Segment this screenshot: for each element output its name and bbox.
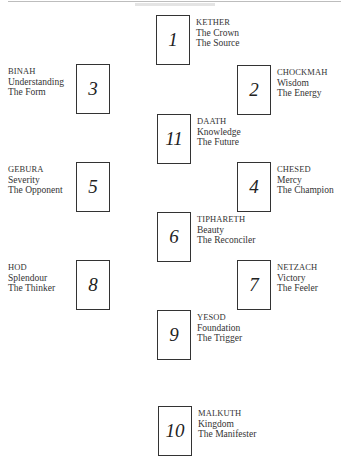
sephirah-role: The Feeler (277, 283, 318, 294)
sephirah-role: The Champion (277, 185, 334, 196)
sephirah-label-kether: KETHERThe CrownThe Source (196, 17, 240, 49)
sephirah-label-chesed: CHESEDMercyThe Champion (277, 164, 334, 196)
sephirah-label-hod: HODSplendourThe Thinker (8, 262, 55, 294)
sephirah-role: The Manifester (198, 429, 256, 440)
sephirah-number: 7 (249, 274, 259, 296)
sephirah-role: The Thinker (8, 283, 55, 294)
sephirah-number: 6 (169, 226, 179, 248)
sephirah-name: CHOCKMAH (277, 67, 327, 78)
sephirah-role: The Source (196, 38, 240, 49)
sephirah-label-gebura: GEBURASeverityThe Opponent (8, 164, 63, 196)
sephirah-number: 8 (88, 274, 98, 296)
sephirah-name: MALKUTH (198, 408, 256, 419)
sephirah-number: 10 (166, 420, 185, 442)
sephirah-name: TIPHARETH (197, 214, 255, 225)
sephirah-meaning: Kingdom (198, 419, 256, 430)
sephirah-label-daath: DAATHKnowledgeThe Future (197, 116, 241, 148)
sephirah-role: The Opponent (8, 185, 63, 196)
sephirah-meaning: Victory (277, 273, 318, 284)
sephirah-box-1: 1 (156, 15, 190, 65)
sephirah-box-3: 3 (76, 64, 110, 114)
sephirah-meaning: Understanding (8, 77, 64, 88)
sephirah-label-binah: BINAHUnderstandingThe Form (8, 66, 64, 98)
sephirah-meaning: Beauty (197, 225, 255, 236)
sephirah-role: The Trigger (197, 333, 242, 344)
sephirah-box-2: 2 (237, 65, 271, 115)
sephirah-role: The Reconciler (197, 235, 255, 246)
sephirah-meaning: Wisdom (277, 78, 327, 89)
sephirah-meaning: Splendour (8, 273, 55, 284)
sephirah-box-6: 6 (157, 212, 191, 262)
sephirah-name: YESOD (197, 312, 242, 323)
sephirah-box-10: 10 (158, 406, 192, 456)
sephirah-box-5: 5 (76, 162, 110, 212)
sephirah-label-tiphareth: TIPHARETHBeautyThe Reconciler (197, 214, 255, 246)
sephirah-number: 2 (249, 79, 259, 101)
sephirah-name: CHESED (277, 164, 334, 175)
sephirah-number: 1 (168, 29, 178, 51)
sephirah-number: 3 (88, 78, 98, 100)
sephirah-role: The Form (8, 87, 64, 98)
sephirah-name: GEBURA (8, 164, 63, 175)
sephirah-meaning: Knowledge (197, 127, 241, 138)
sephirah-role: The Future (197, 137, 241, 148)
sephirah-number: 5 (88, 176, 98, 198)
sephirah-name: DAATH (197, 116, 241, 127)
sephirah-number: 4 (249, 176, 259, 198)
sephirah-box-4: 4 (237, 162, 271, 212)
sephirah-box-8: 8 (76, 260, 110, 310)
sephirah-box-7: 7 (237, 260, 271, 310)
sephirah-box-11: 11 (157, 114, 191, 164)
sephirah-meaning: Foundation (197, 323, 242, 334)
sephirah-name: BINAH (8, 66, 64, 77)
sephirah-label-netzach: NETZACHVictoryThe Feeler (277, 262, 318, 294)
sephirah-label-malkuth: MALKUTHKingdomThe Manifester (198, 408, 256, 440)
page-running-header (135, 3, 215, 6)
sephirah-meaning: The Crown (196, 28, 240, 39)
sephirah-number: 9 (169, 324, 179, 346)
sephirah-meaning: Severity (8, 175, 63, 186)
sephirah-meaning: Mercy (277, 175, 334, 186)
sephirah-box-9: 9 (157, 310, 191, 360)
sephirah-name: HOD (8, 262, 55, 273)
sephirah-number: 11 (165, 128, 183, 150)
sephirah-role: The Energy (277, 88, 327, 99)
sephirah-name: NETZACH (277, 262, 318, 273)
sephirah-name: KETHER (196, 17, 240, 28)
page-header-rule (8, 1, 341, 2)
sephirah-label-chockmah: CHOCKMAHWisdomThe Energy (277, 67, 327, 99)
sephirah-label-yesod: YESODFoundationThe Trigger (197, 312, 242, 344)
